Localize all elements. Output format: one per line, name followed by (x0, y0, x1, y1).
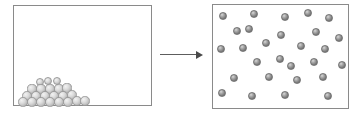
particle (321, 45, 329, 53)
arrow-head-icon (196, 51, 203, 59)
particle (36, 97, 45, 106)
particle (253, 58, 261, 66)
particle (239, 44, 247, 52)
particle (335, 34, 343, 42)
particle (265, 73, 273, 81)
particle (230, 74, 238, 82)
particle (218, 89, 226, 97)
particle (319, 73, 327, 81)
particle (262, 39, 270, 47)
particle (248, 92, 256, 100)
gas-state-container (212, 4, 349, 109)
particle (245, 25, 253, 33)
particle (281, 91, 289, 99)
particle (304, 9, 312, 17)
particle (63, 97, 72, 106)
particle (18, 97, 27, 106)
particle (287, 62, 295, 70)
particle (325, 14, 333, 22)
arrow-shaft (160, 54, 198, 55)
particle (277, 31, 285, 39)
particle (312, 28, 320, 36)
particle (45, 97, 54, 106)
particle (233, 27, 241, 35)
particle (293, 76, 301, 84)
particle (80, 96, 89, 105)
particle (276, 55, 284, 63)
particle (27, 97, 36, 106)
particle (54, 97, 63, 106)
particle (297, 42, 305, 50)
particle (338, 61, 346, 69)
particle (219, 12, 227, 20)
particle (281, 13, 289, 21)
solid-state-container (13, 5, 152, 106)
particle (250, 10, 258, 18)
diagram-canvas (0, 0, 362, 119)
particle (324, 92, 332, 100)
particle (310, 58, 318, 66)
particle (217, 45, 225, 53)
transformation-arrow (160, 50, 204, 59)
